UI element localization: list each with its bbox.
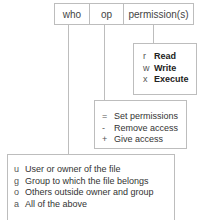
legend-item-all: a All of the above: [14, 199, 174, 211]
legend-item-group: g Group to which the file belongs: [14, 176, 174, 188]
who-cell: who: [55, 4, 89, 24]
permissions-cell: permission(s): [123, 4, 193, 24]
chmod-syntax-header: who op permission(s): [54, 3, 194, 25]
op-cell: op: [89, 4, 123, 24]
legend-item-write: w Write: [143, 63, 196, 75]
op-connector: [104, 25, 105, 101]
operator-legend: = Set permissions - Remove access + Give…: [94, 100, 187, 149]
legend-item-user: u User or owner of the file: [14, 164, 174, 176]
legend-item-execute: x Execute: [143, 74, 196, 86]
legend-item-give: + Give access: [102, 134, 186, 146]
legend-item-read: r Read: [143, 51, 196, 63]
permissions-legend: r Read w Write x Execute: [133, 43, 197, 95]
legend-item-set: = Set permissions: [102, 111, 186, 123]
permission-connector: [153, 25, 154, 44]
legend-item-others: o Others outside owner and group: [14, 187, 174, 199]
who-connector: [68, 25, 69, 155]
legend-item-remove: - Remove access: [102, 123, 186, 135]
who-legend: u User or owner of the file g Group to w…: [7, 154, 175, 220]
